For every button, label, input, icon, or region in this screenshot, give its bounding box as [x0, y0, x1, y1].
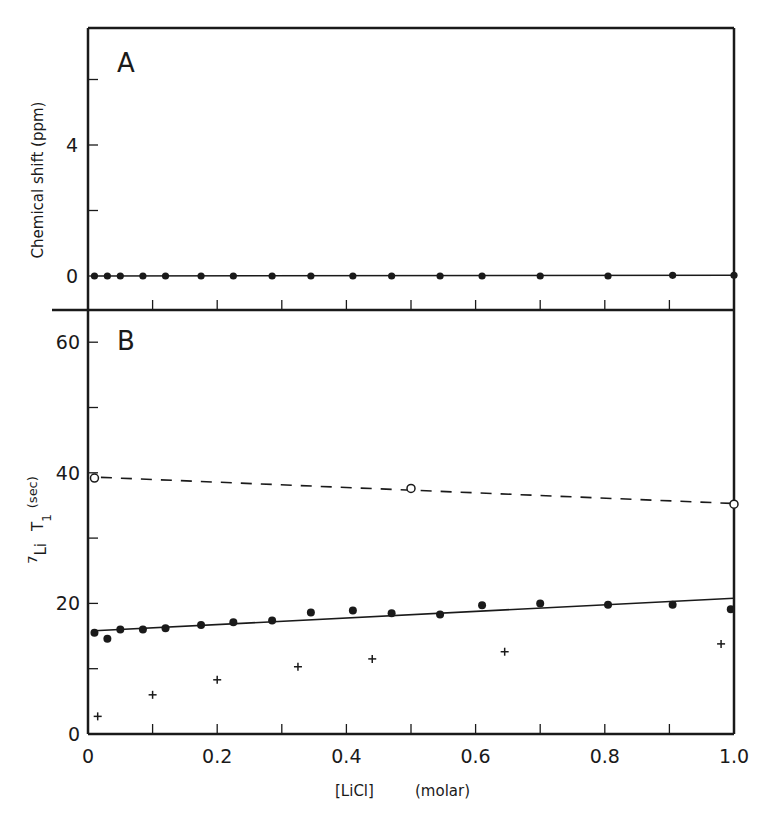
data-point-filled	[139, 272, 146, 279]
data-point-filled	[727, 605, 735, 613]
data-point-filled	[197, 621, 205, 629]
ylabel-nucleus: Li	[32, 543, 50, 556]
data-point-filled	[536, 599, 544, 607]
x-tick-label: 1.0	[719, 745, 749, 767]
chart-figure: 04020406000.20.40.60.81.0 A B Chemical s…	[0, 0, 761, 814]
y-tick-label-a: 0	[66, 265, 78, 287]
data-point-cross	[213, 676, 221, 684]
solid-fit-line	[94, 598, 734, 631]
ylabel-unit: (sec)	[25, 476, 40, 508]
panel-a-plot-area	[91, 272, 738, 280]
data-point-filled	[162, 272, 169, 279]
ylabel-sub: 1	[40, 514, 54, 522]
x-tick-label: 0.2	[202, 745, 232, 767]
data-point-filled	[90, 629, 98, 637]
y-tick-label-a: 4	[66, 134, 78, 156]
data-point-cross	[294, 663, 302, 671]
x-axis-title-bracket: [LiCl]	[335, 782, 374, 800]
y-axis-title-b: 7LiT1(sec)	[25, 476, 54, 564]
data-point-filled	[388, 272, 395, 279]
panel-a-trend-line	[94, 275, 734, 276]
data-point-filled	[478, 601, 486, 609]
data-point-filled	[669, 601, 677, 609]
axis-tick-labels: 04020406000.20.40.60.81.0	[56, 134, 749, 767]
y-tick-label-b: 20	[56, 592, 80, 614]
data-point-filled	[537, 272, 544, 279]
data-point-filled	[436, 611, 444, 619]
data-point-filled	[349, 272, 356, 279]
y-tick-label-b: 40	[56, 462, 80, 484]
data-point-filled	[669, 272, 676, 279]
data-point-cross	[501, 648, 509, 656]
data-point-filled	[103, 635, 111, 643]
x-tick-label: 0.4	[331, 745, 361, 767]
panel-b-plot-area	[90, 474, 738, 720]
panel-a-letter: A	[117, 48, 135, 78]
data-point-filled	[116, 626, 124, 634]
x-tick-label: 0.6	[460, 745, 490, 767]
y-axis-title-a: Chemical shift (ppm)	[29, 102, 47, 259]
data-point-filled	[162, 624, 170, 632]
data-point-filled	[604, 601, 612, 609]
data-point-filled	[197, 272, 204, 279]
data-point-filled	[268, 616, 276, 624]
data-point-cross	[368, 655, 376, 663]
data-point-filled	[91, 272, 98, 279]
data-point-filled	[229, 618, 237, 626]
x-tick-label: 0	[82, 745, 94, 767]
x-axis-title-unit: (molar)	[415, 782, 470, 800]
data-point-filled	[307, 272, 314, 279]
data-point-filled	[604, 272, 611, 279]
data-point-open	[90, 474, 98, 482]
panel-b-letter: B	[117, 326, 135, 356]
data-point-filled	[730, 272, 737, 279]
data-point-filled	[230, 272, 237, 279]
data-point-filled	[436, 272, 443, 279]
data-point-filled	[139, 626, 147, 634]
x-tick-label: 0.8	[590, 745, 620, 767]
data-point-filled	[388, 609, 396, 617]
ylabel-iso-sup: 7	[25, 556, 40, 564]
data-point-filled	[104, 272, 111, 279]
axis-ticks	[88, 80, 734, 735]
data-point-cross	[94, 712, 102, 720]
svg-text:7LiT1(sec): 7LiT1(sec)	[25, 476, 54, 564]
data-point-filled	[349, 607, 357, 615]
data-point-open	[407, 484, 415, 492]
y-tick-label-b: 60	[56, 331, 80, 353]
y-tick-label-b: 0	[68, 723, 80, 745]
data-point-filled	[478, 272, 485, 279]
data-point-cross	[717, 640, 725, 648]
data-point-open	[730, 500, 738, 508]
dashed-fit-line	[101, 477, 734, 503]
data-point-filled	[269, 272, 276, 279]
data-point-filled	[307, 609, 315, 617]
data-point-cross	[149, 691, 157, 699]
data-point-filled	[117, 272, 124, 279]
